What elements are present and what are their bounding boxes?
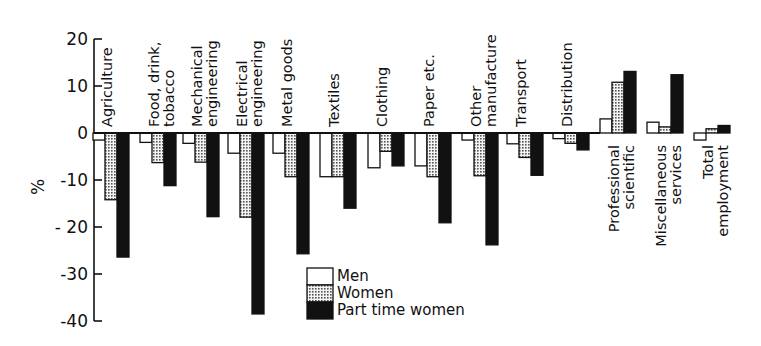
y-tick-label: -10 [60, 170, 88, 190]
bar-women [240, 133, 252, 217]
bar-men [183, 133, 195, 143]
y-axis: 20100-10- 20-30-40 [55, 29, 102, 331]
bar-men [694, 133, 706, 140]
bar-group [183, 133, 219, 217]
category-label: engineering [249, 40, 265, 127]
category-label: tobacco [161, 69, 177, 127]
bar-men [415, 133, 427, 166]
legend-swatch [307, 268, 333, 285]
legend-label: Men [337, 267, 369, 285]
bar-part-time-women [624, 71, 636, 133]
category-label: employment [715, 145, 731, 237]
category-label: Mechanical [189, 45, 205, 127]
bar-group [507, 133, 543, 175]
bar-part-time-women [117, 133, 129, 257]
bar-men [93, 133, 105, 140]
bar-men [273, 133, 285, 153]
bar-group [228, 133, 264, 314]
bar-part-time-women [531, 133, 543, 175]
category-label: Paper etc. [421, 54, 437, 127]
bar-part-time-women [577, 133, 589, 150]
bar-chart: 20100-10- 20-30-40 % AgricultureFood, dr… [0, 0, 761, 346]
bar-part-time-women [297, 133, 309, 254]
bar-men [368, 133, 380, 168]
bar-part-time-women [718, 125, 730, 133]
y-tick-label: 20 [66, 29, 88, 49]
category-label: Other [468, 86, 484, 127]
bar-men [647, 122, 659, 133]
bar-group [273, 133, 309, 254]
bar-women [152, 133, 164, 163]
bar-men [462, 133, 474, 140]
bar-women [105, 133, 117, 200]
category-label: manufacture [483, 34, 499, 127]
bar-group [694, 125, 730, 140]
bar-group [415, 133, 451, 223]
y-tick-label: 10 [66, 76, 88, 96]
y-tick-label: -40 [60, 311, 88, 331]
bar-men [228, 133, 240, 153]
category-label: Transport [513, 59, 529, 128]
bar-men [507, 133, 519, 144]
bar-women [519, 133, 531, 157]
category-label: scientific [621, 145, 637, 210]
legend-swatch [307, 302, 333, 319]
bar-part-time-women [207, 133, 219, 217]
category-label: engineering [204, 40, 220, 127]
bar-group [553, 133, 589, 150]
bar-group [600, 71, 636, 133]
bar-women [380, 133, 392, 151]
y-tick-label: 0 [77, 123, 88, 143]
bar-women [285, 133, 297, 177]
category-label: Distribution [559, 42, 575, 127]
bar-women [612, 82, 624, 133]
category-label: Textiles [326, 73, 342, 128]
bar-group [462, 133, 498, 245]
bar-group [368, 133, 404, 168]
bar-part-time-women [392, 133, 404, 166]
bar-men [320, 133, 332, 177]
bar-group [93, 133, 129, 257]
bar-group [140, 133, 176, 186]
bar-part-time-women [439, 133, 451, 223]
legend-swatch [307, 285, 333, 302]
bar-women [474, 133, 486, 176]
y-tick-label: - 20 [55, 217, 88, 237]
category-label: Professional [606, 145, 622, 232]
category-label: Total [700, 145, 716, 180]
legend: MenWomenPart time women [307, 267, 465, 319]
category-label: Food, drink, [146, 42, 162, 127]
bar-part-time-women [344, 133, 356, 208]
bar-women [332, 133, 344, 177]
y-axis-label: % [28, 179, 48, 195]
bar-part-time-women [164, 133, 176, 186]
bar-women [427, 133, 439, 177]
bar-men [600, 119, 612, 133]
bar-group [647, 75, 683, 133]
bar-women [195, 133, 207, 162]
category-label: Clothing [374, 67, 390, 127]
bar-women [565, 133, 577, 143]
bar-group [320, 133, 356, 208]
bar-women [659, 127, 671, 133]
legend-label: Women [337, 284, 393, 302]
category-label: services [668, 145, 684, 205]
bar-part-time-women [252, 133, 264, 314]
bar-women [706, 129, 718, 133]
bar-part-time-women [486, 133, 498, 245]
legend-label: Part time women [337, 301, 465, 319]
category-label: Metal goods [279, 39, 295, 127]
category-label: Miscellaneous [653, 145, 669, 247]
category-label: Electrical [234, 60, 250, 127]
bar-men [140, 133, 152, 142]
bar-part-time-women [671, 75, 683, 133]
y-tick-label: -30 [60, 264, 88, 284]
category-label: Agriculture [99, 47, 115, 127]
